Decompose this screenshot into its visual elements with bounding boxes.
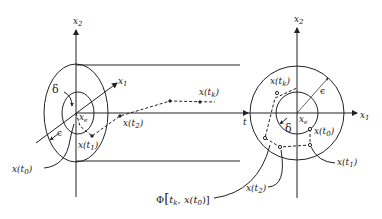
right-x2-label: x2 [294,14,304,26]
right-xe-label: xe [299,114,308,125]
right-x1-label: x1 [360,110,370,122]
left-t-label: t [243,117,247,127]
left-xt2-label: x(t2) [123,118,144,130]
left-trajectory [76,101,215,136]
left-xt0-label: x(t0) [12,164,33,176]
right-xt1-leader [311,147,335,163]
right-labels: x2 x1 δ ϵ xe x(t0) x(t1) x(t2) x(tk) [246,14,370,195]
left-xtk-label: x(tk) [199,87,219,99]
left-epsilon-label: ϵ [57,128,62,138]
right-xt2-leader [268,150,282,187]
right-xtk-label: x(tk) [270,76,290,88]
left-xe-label: xe [79,112,88,123]
stability-diagram: x2 x1 t δ ϵ xe x(t0) x(t1) x(t2) x(tk) x… [0,0,382,219]
right-xt1-label: x(t1) [337,157,358,169]
left-diagram [36,30,248,197]
right-epsilon-label: ϵ [320,86,325,96]
left-labels: x2 x1 t δ ϵ xe x(t0) x(t1) x(t2) x(tk) [12,16,247,176]
right-xt0-label: x(t0) [314,126,335,138]
left-x2-label: x2 [73,16,83,28]
left-x1-label: x1 [118,76,128,88]
right-xt2-label: x(t2) [246,183,267,195]
left-delta-label: δ [52,83,59,96]
left-xt1-label: x(t1) [78,140,99,152]
trajectory-phi-label: Φ[tk, x(t0)] [156,191,210,207]
right-delta-label: δ [285,122,292,135]
